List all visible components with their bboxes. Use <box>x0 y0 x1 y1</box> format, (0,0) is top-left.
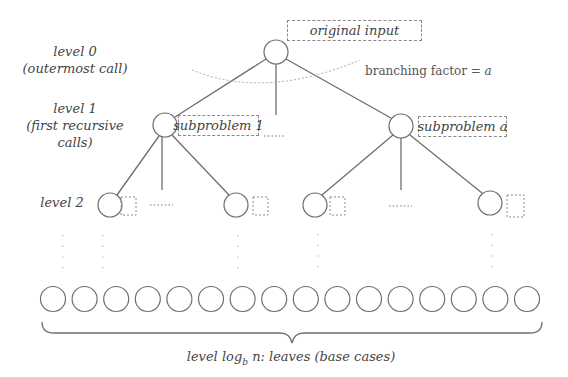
leaf-node <box>515 287 540 312</box>
edge-sub1-right <box>172 135 229 195</box>
level2-node <box>224 193 248 217</box>
leaf-node <box>325 287 350 312</box>
original-input-box: original input <box>287 20 422 41</box>
leaf-node <box>199 287 224 312</box>
subproblem-a-box: subproblem a <box>418 116 507 137</box>
leaf-node <box>167 287 192 312</box>
leaf-node <box>357 287 382 312</box>
edge-suba-left <box>322 135 393 195</box>
level1-node-a <box>389 114 413 138</box>
level2-node <box>303 193 327 217</box>
subproblem-a-label: subproblem a <box>417 119 507 134</box>
leaf-node <box>293 287 318 312</box>
level2-node <box>478 191 502 215</box>
leaves-label: level logb n: leaves (base cases) <box>180 348 402 371</box>
leaf-node <box>41 287 66 312</box>
level2-box <box>507 195 524 217</box>
branching-factor-text: branching factor = <box>365 64 481 78</box>
level-1-title: level 1 <box>20 100 130 117</box>
subproblem-1-label: subproblem 1 <box>173 118 264 133</box>
leaf-node <box>388 287 413 312</box>
level2-box <box>121 197 136 215</box>
leaf-node <box>104 287 129 312</box>
level-1-subtitle: (first recursive <box>20 117 130 134</box>
leaf-node <box>483 287 508 312</box>
leaf-node <box>72 287 97 312</box>
level-2-title: level 2 <box>40 194 84 211</box>
level2-box <box>253 197 268 215</box>
leaf-node <box>135 287 160 312</box>
level-0-label: level 0 (outermost call) <box>16 43 134 77</box>
level2-box <box>330 197 345 215</box>
level2-node <box>98 193 122 217</box>
leaf-node <box>262 287 287 312</box>
level-1-subtitle-2: calls) <box>20 134 130 151</box>
level-0-title: level 0 <box>16 43 134 60</box>
level-1-label: level 1 (first recursive calls) <box>20 100 130 151</box>
leaf-node <box>420 287 445 312</box>
leaves-brace <box>42 322 542 343</box>
edge-root-to-sub1 <box>175 59 266 117</box>
leaves-label-prefix: level log <box>187 349 243 364</box>
root-node <box>264 40 288 64</box>
leaf-node <box>230 287 255 312</box>
leaf-row <box>41 287 540 312</box>
edge-suba-right <box>410 135 482 193</box>
level-2-label: level 2 <box>40 194 84 211</box>
leaves-label-suffix: n: leaves (base cases) <box>248 349 395 364</box>
branching-factor-variable: a <box>485 64 492 78</box>
original-input-label: original input <box>310 23 400 38</box>
branching-factor-annotation: branching factor = a <box>365 64 492 78</box>
subproblem-1-box: subproblem 1 <box>178 115 259 136</box>
level-0-subtitle: (outermost call) <box>16 60 134 77</box>
leaf-node <box>451 287 476 312</box>
